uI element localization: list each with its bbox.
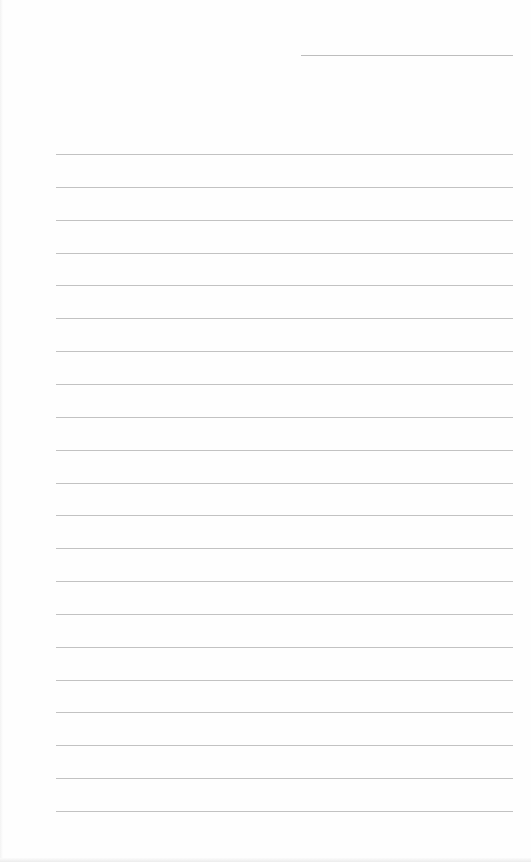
ruled-line [56, 285, 513, 286]
ruled-line [56, 450, 513, 451]
ruled-line [56, 647, 513, 648]
ruled-line [56, 384, 513, 385]
ruled-line [56, 745, 513, 746]
ruled-line [56, 154, 513, 155]
ruled-line [56, 614, 513, 615]
ruled-line [56, 417, 513, 418]
ruled-line [56, 351, 513, 352]
ruled-line [56, 318, 513, 319]
header-rule-line [301, 55, 513, 56]
page-bottom-edge [0, 858, 531, 862]
ruled-line [56, 483, 513, 484]
ruled-line [56, 515, 513, 516]
notepaper-page [0, 0, 531, 862]
ruled-line [56, 680, 513, 681]
ruled-line [56, 581, 513, 582]
ruled-line [56, 811, 513, 812]
ruled-line [56, 712, 513, 713]
ruled-line [56, 548, 513, 549]
ruled-line [56, 187, 513, 188]
ruled-line [56, 220, 513, 221]
ruled-line [56, 253, 513, 254]
ruled-line [56, 778, 513, 779]
page-left-edge [0, 0, 3, 862]
